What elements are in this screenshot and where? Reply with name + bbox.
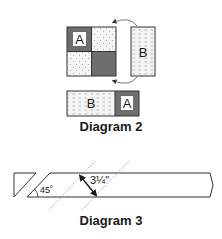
cell-label-a: A	[75, 32, 84, 47]
panel-label-b: B	[139, 45, 148, 60]
diagram-2-caption: Diagram 2	[0, 119, 222, 134]
cell-bottom-right	[92, 52, 117, 77]
measurement-label: 3¼"	[90, 174, 109, 186]
beveled-strip	[27, 173, 213, 197]
side-panel-b: B	[131, 27, 155, 76]
top-curved-arrow-icon	[114, 20, 137, 26]
strip-label-a: A	[123, 96, 132, 111]
diagram-3-caption: Diagram 3	[0, 213, 222, 228]
cell-bottom-left	[67, 52, 92, 77]
cell-top-right	[92, 27, 117, 52]
strip-label-b: B	[87, 96, 96, 111]
bottom-curved-arrow-icon	[114, 77, 137, 83]
grid-block: A	[67, 27, 116, 76]
strip-block: B A	[67, 91, 139, 116]
angle-label: 45˚	[40, 185, 53, 195]
diagram-2: A B B A	[67, 20, 155, 116]
diagram-3: 45˚ 3¼"	[14, 161, 213, 210]
